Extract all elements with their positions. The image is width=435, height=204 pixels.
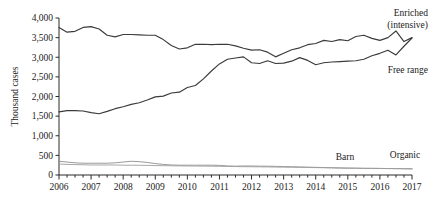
series-label-enriched-line1: Enriched xyxy=(394,8,429,18)
y-tick-label: 500 xyxy=(39,151,54,161)
y-tick-label: 2,500 xyxy=(32,72,54,82)
y-tick-label: 2,000 xyxy=(32,92,54,102)
line-chart: 05001,0001,5002,0002,5003,0003,5004,000 … xyxy=(0,0,435,204)
y-tick-label: 1,500 xyxy=(32,111,54,121)
series-line-free-range xyxy=(59,38,412,114)
series-label-organic: Organic xyxy=(390,150,420,160)
y-tick-label: 1,000 xyxy=(32,131,54,141)
series-label-barn: Barn xyxy=(336,152,355,162)
x-tick-label: 2011 xyxy=(210,182,229,192)
axis-tick-marks xyxy=(56,18,413,180)
y-axis-tick-labels: 05001,0001,5002,0002,5003,0003,5004,000 xyxy=(32,13,54,180)
x-axis-tick-labels: 2006200720082009201020112012201320142015… xyxy=(50,182,422,192)
x-tick-label: 2017 xyxy=(403,182,422,192)
y-axis-title: Thousand cases xyxy=(10,66,20,126)
x-tick-label: 2007 xyxy=(82,182,101,192)
x-tick-label: 2015 xyxy=(338,182,357,192)
y-tick-label: 3,500 xyxy=(32,33,54,43)
x-tick-label: 2006 xyxy=(50,182,69,192)
series-label-free-range: Free range xyxy=(388,65,428,75)
x-tick-label: 2012 xyxy=(242,182,261,192)
y-tick-label: 4,000 xyxy=(32,13,54,23)
y-tick-label: 0 xyxy=(48,170,53,180)
series-label-enriched-line2: (intensive) xyxy=(387,20,428,31)
series-line-enriched-intensive xyxy=(59,27,412,57)
x-tick-label: 2014 xyxy=(306,182,325,192)
x-tick-label: 2008 xyxy=(114,182,133,192)
x-tick-label: 2013 xyxy=(274,182,293,192)
x-tick-label: 2010 xyxy=(178,182,197,192)
series-lines xyxy=(59,27,412,169)
series-line-organic xyxy=(59,164,412,169)
chart-svg: 05001,0001,5002,0002,5003,0003,5004,000 … xyxy=(0,0,435,204)
x-tick-label: 2016 xyxy=(370,182,389,192)
y-tick-label: 3,000 xyxy=(32,53,54,63)
x-tick-label: 2009 xyxy=(146,182,165,192)
